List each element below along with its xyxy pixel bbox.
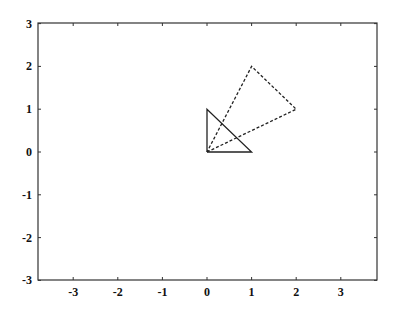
y-tick-labels: 3210-1-2-3 bbox=[22, 17, 32, 288]
y-tick-label: -3 bbox=[22, 273, 32, 287]
y-tick-label: 2 bbox=[26, 59, 32, 73]
x-tick-label: 0 bbox=[204, 285, 210, 299]
dashed-triangle bbox=[207, 66, 296, 152]
y-tick-label: 3 bbox=[26, 17, 32, 31]
x-tick-label: 1 bbox=[249, 285, 255, 299]
series-layer bbox=[207, 66, 296, 152]
x-tick-label: -3 bbox=[68, 285, 78, 299]
x-tick-label: 3 bbox=[338, 285, 344, 299]
x-tick-label: 2 bbox=[293, 285, 299, 299]
plot: -3-2-10123 3210-1-2-3 bbox=[0, 0, 395, 314]
y-tick-label: -2 bbox=[22, 231, 32, 245]
solid-triangle bbox=[207, 109, 252, 152]
y-tick-label: 1 bbox=[26, 102, 32, 116]
y-tick-label: -1 bbox=[22, 188, 32, 202]
x-tick-label: -2 bbox=[113, 285, 123, 299]
x-tick-labels: -3-2-10123 bbox=[68, 285, 344, 299]
x-tick-label: -1 bbox=[157, 285, 167, 299]
y-tick-label: 0 bbox=[26, 145, 32, 159]
